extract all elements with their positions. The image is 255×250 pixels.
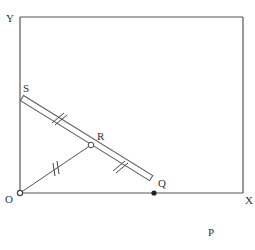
label-q: Q: [158, 177, 166, 189]
point-o: [17, 190, 22, 195]
segment-or: [20, 145, 91, 193]
point-r: [88, 142, 94, 148]
rod-sp: [20, 95, 152, 180]
label-s: S: [23, 82, 29, 94]
label-o: O: [5, 193, 13, 205]
label-p: P: [208, 226, 214, 238]
label-y: Y: [6, 12, 14, 24]
point-q: [151, 190, 156, 195]
geometry-figure: Y S R O Q X P: [0, 0, 255, 250]
label-r: R: [97, 130, 105, 142]
diagram-canvas: Y S R O Q X P: [0, 0, 255, 250]
label-x: X: [245, 194, 253, 206]
